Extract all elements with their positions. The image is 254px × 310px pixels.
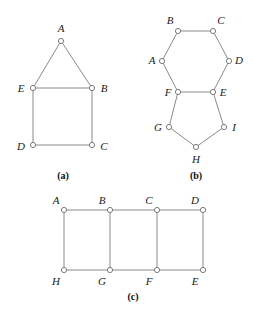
graph-drawing-canvas bbox=[0, 0, 254, 310]
vertex-label-h: H bbox=[192, 154, 200, 165]
vertex-label-a: A bbox=[58, 23, 65, 34]
graph-vertex-f bbox=[154, 267, 159, 272]
vertex-label-d: D bbox=[191, 195, 199, 206]
graph-vertex-b bbox=[89, 85, 94, 90]
graph-vertex-a bbox=[61, 207, 66, 212]
vertex-label-e: E bbox=[18, 83, 25, 94]
vertex-label-b: B bbox=[101, 83, 108, 94]
graph-edge-i-h bbox=[196, 127, 224, 147]
vertex-label-f: F bbox=[165, 87, 172, 98]
vertex-label-h: H bbox=[52, 276, 60, 287]
panel-c bbox=[61, 207, 205, 272]
graph-vertex-d bbox=[30, 142, 35, 147]
graph-vertex-c bbox=[154, 207, 159, 212]
graph-vertex-a bbox=[58, 38, 63, 43]
graph-vertex-d bbox=[226, 58, 231, 63]
graph-vertex-d bbox=[200, 207, 205, 212]
graph-vertex-a bbox=[159, 58, 164, 63]
vertex-label-e: E bbox=[220, 87, 227, 98]
vertex-label-b: B bbox=[167, 15, 174, 26]
graph-edge-a-b bbox=[61, 41, 92, 88]
graph-edge-g-h bbox=[169, 127, 196, 147]
vertex-label-i: I bbox=[232, 122, 236, 133]
vertex-label-d: D bbox=[17, 141, 25, 152]
graph-edge-c-d bbox=[213, 31, 229, 61]
graph-figure: AEBDC(a)BCADFEGIH(b)ABCDHGFE(c) bbox=[0, 0, 254, 310]
panel-b-caption: (b) bbox=[190, 171, 202, 181]
graph-vertex-c bbox=[89, 142, 94, 147]
vertex-label-c: C bbox=[145, 195, 152, 206]
graph-vertex-e bbox=[30, 85, 35, 90]
panel-a-caption: (a) bbox=[57, 171, 69, 181]
vertex-label-d: D bbox=[235, 55, 243, 66]
graph-vertex-g bbox=[166, 124, 171, 129]
vertex-label-f: F bbox=[146, 276, 153, 287]
graph-vertex-i bbox=[221, 124, 226, 129]
graph-vertex-c bbox=[210, 28, 215, 33]
vertex-label-e: E bbox=[192, 276, 199, 287]
vertex-label-g: G bbox=[98, 276, 106, 287]
vertex-label-a: A bbox=[149, 55, 156, 66]
vertex-label-b: B bbox=[99, 195, 106, 206]
vertex-label-c: C bbox=[100, 141, 107, 152]
graph-edge-a-e bbox=[33, 41, 61, 88]
graph-vertex-g bbox=[107, 267, 112, 272]
graph-vertex-b bbox=[107, 207, 112, 212]
graph-vertex-h bbox=[193, 144, 198, 149]
vertex-label-c: C bbox=[217, 15, 224, 26]
graph-vertex-b bbox=[175, 28, 180, 33]
panel-a bbox=[30, 38, 94, 147]
vertex-label-g: G bbox=[154, 122, 162, 133]
graph-vertex-h bbox=[61, 267, 66, 272]
graph-edge-b-a bbox=[162, 31, 178, 61]
graph-vertex-e bbox=[210, 89, 215, 94]
graph-vertex-f bbox=[175, 89, 180, 94]
panel-c-caption: (c) bbox=[127, 292, 138, 302]
graph-vertex-e bbox=[200, 267, 205, 272]
vertex-label-a: A bbox=[53, 195, 60, 206]
